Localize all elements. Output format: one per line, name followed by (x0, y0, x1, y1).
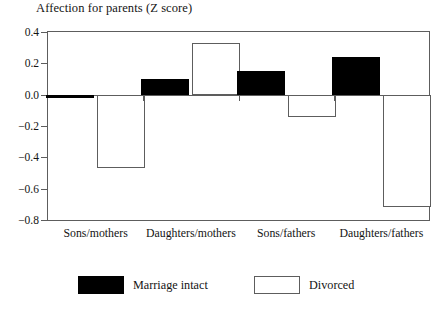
bar-divorced-daughters-mothers (192, 43, 240, 95)
y-axis-tick (41, 157, 48, 158)
x-axis-tick (239, 95, 240, 101)
y-axis-label: −0.2 (18, 120, 39, 132)
legend-entry: Marriage intact (78, 276, 208, 294)
y-axis-label: 0.0 (25, 89, 39, 101)
x-axis-category-label: Daughters/fathers (339, 226, 423, 241)
y-axis-tick (41, 32, 48, 33)
y-axis-label: −0.6 (18, 183, 39, 195)
legend-entry: Divorced (254, 276, 354, 294)
legend-swatch-intact (78, 276, 124, 294)
y-axis-tick (41, 189, 48, 190)
bar-marriage-intact-sons-mothers (46, 95, 94, 98)
bar-marriage-intact-daughters-mothers (141, 79, 189, 95)
x-axis-tick (334, 95, 335, 101)
x-axis-category-label: Sons/fathers (257, 226, 315, 241)
bar-divorced-daughters-fathers (383, 95, 431, 208)
y-axis-label: −0.4 (18, 151, 39, 163)
legend-swatch-divorced (254, 276, 300, 294)
bar-marriage-intact-sons-fathers (237, 71, 285, 95)
y-axis-tick (41, 63, 48, 64)
plot-inner: 0.40.20.0−0.2−0.4−0.6−0.8 (48, 32, 429, 220)
y-axis-tick (41, 220, 48, 221)
x-axis-category-label: Sons/mothers (64, 226, 128, 241)
bar-marriage-intact-daughters-fathers (332, 57, 380, 95)
chart-container: Affection for parents (Z score) 0.40.20.… (0, 0, 439, 309)
chart-legend: Marriage intactDivorced (0, 272, 439, 300)
x-axis-category-label: Daughters/mothers (146, 226, 236, 241)
y-axis-label: 0.2 (25, 57, 39, 69)
bar-divorced-sons-mothers (97, 95, 145, 169)
y-axis-label: −0.8 (18, 214, 39, 226)
legend-label: Divorced (309, 278, 354, 293)
y-axis-tick (41, 126, 48, 127)
legend-label: Marriage intact (133, 278, 208, 293)
plot-area: 0.40.20.0−0.2−0.4−0.6−0.8 (47, 31, 430, 221)
bar-divorced-sons-fathers (288, 95, 336, 117)
chart-title: Affection for parents (Z score) (36, 1, 192, 16)
y-axis-label: 0.4 (25, 26, 39, 38)
x-axis-tick (143, 95, 144, 101)
